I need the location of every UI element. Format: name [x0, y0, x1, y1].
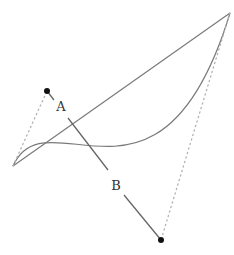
- control-point-a[interactable]: [44, 88, 50, 94]
- label-b: B: [111, 178, 121, 193]
- label-a: A: [55, 99, 66, 114]
- segment-label-b-to-b: [124, 195, 161, 240]
- bezier-diagram: A B: [0, 0, 234, 255]
- control-point-b[interactable]: [158, 237, 164, 243]
- control-handle-a: [13, 91, 47, 166]
- control-handle-b: [161, 13, 230, 240]
